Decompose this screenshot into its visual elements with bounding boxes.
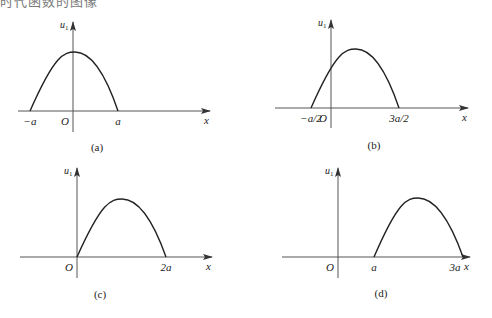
panel-a: u1xO−aa(a) [18, 19, 210, 154]
tick-label: 2a [161, 261, 173, 273]
tick-label: −a/2 [300, 112, 322, 124]
panel-b: u1xO−a/23a/2(b) [275, 17, 468, 152]
tick-label: −a [24, 115, 37, 127]
y-axis-label: u1 [60, 19, 69, 32]
panel-caption: (a) [91, 141, 104, 154]
panel-caption: (d) [375, 287, 388, 300]
y-axis-label: u1 [325, 165, 334, 178]
tick-label: 3a/2 [388, 112, 409, 124]
origin-label: O [61, 115, 69, 127]
tick-label: a [115, 115, 121, 127]
y-axis-label: u1 [318, 17, 327, 30]
origin-label: O [326, 261, 334, 273]
x-axis-label: x [205, 260, 211, 272]
diagram-canvas: u1xO−aa(a)u1xO−a/23a/2(b)u1xO2a(c)u1xOa3… [0, 0, 492, 318]
x-axis-label: x [463, 260, 469, 272]
panel-d: u1xOa3a(d) [282, 165, 470, 300]
curve-u1 [311, 49, 399, 108]
panel-c: u1xO2a(c) [20, 165, 212, 301]
tick-label: 3a [449, 261, 462, 273]
curve-u1 [374, 198, 463, 257]
x-axis-label: x [461, 111, 467, 123]
curve-u1 [30, 52, 118, 111]
tick-label: a [371, 261, 377, 273]
origin-label: O [65, 261, 73, 273]
y-axis-label: u1 [64, 165, 73, 178]
x-axis-label: x [203, 114, 209, 126]
panel-caption: (c) [94, 288, 107, 301]
panel-caption: (b) [368, 139, 381, 152]
curve-u1 [77, 199, 166, 257]
